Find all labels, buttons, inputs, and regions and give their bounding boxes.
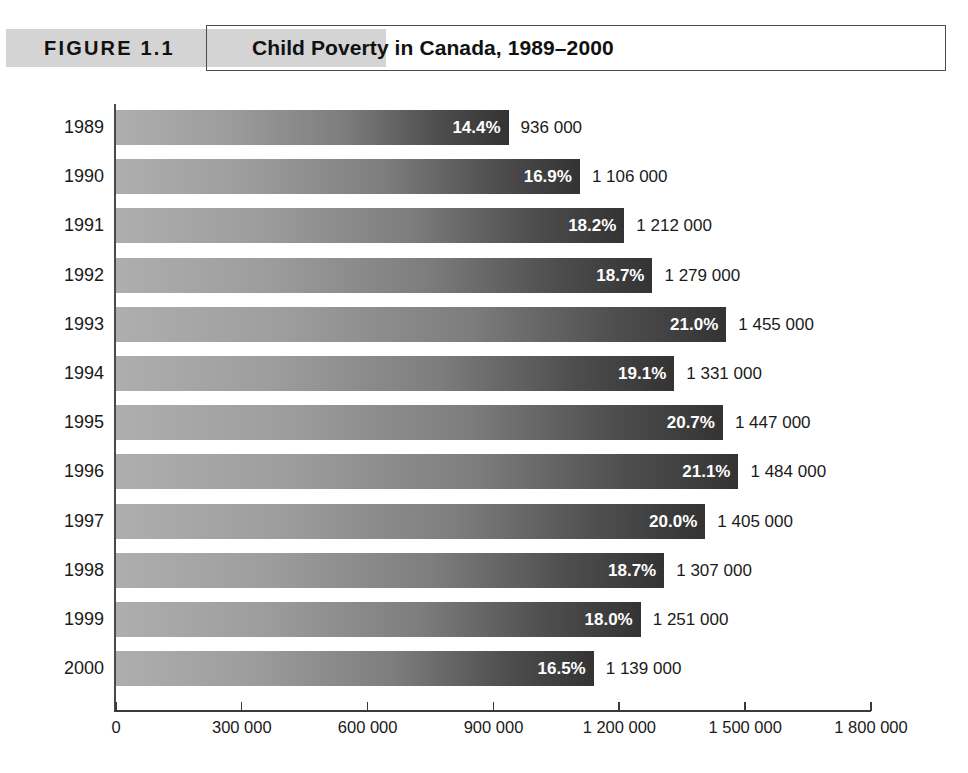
y-axis-category-label: 1996 (0, 454, 104, 489)
x-axis-tick-label: 1 500 000 (708, 718, 781, 737)
figure-title: Child Poverty in Canada, 1989–2000 (252, 26, 614, 70)
y-axis-category-label: 1999 (0, 602, 104, 637)
bar-value-label: 1 331 000 (686, 356, 762, 391)
bar-value-label: 1 484 000 (750, 454, 826, 489)
bar-value-label: 1 212 000 (636, 208, 712, 243)
bar-value-label: 1 139 000 (606, 651, 682, 686)
bar-value-label: 1 279 000 (664, 258, 740, 293)
bar-percent-label: 20.7% (667, 405, 715, 440)
y-axis-category-label: 1994 (0, 356, 104, 391)
figure-number-label: FIGURE 1.1 (44, 30, 244, 66)
y-axis-category-label: 1998 (0, 553, 104, 588)
x-axis-tick (493, 702, 495, 711)
x-axis-tick-label: 0 (111, 718, 120, 737)
bar: 21.0% (116, 307, 726, 342)
bar: 16.9% (116, 159, 580, 194)
bar: 19.1% (116, 356, 674, 391)
x-axis-tick (115, 702, 117, 711)
bar: 14.4% (116, 110, 509, 145)
chart-row: 198914.4%936 000 (0, 110, 968, 145)
x-axis-tick-label: 300 000 (212, 718, 272, 737)
y-axis-category-label: 2000 (0, 651, 104, 686)
bar-percent-label: 18.7% (608, 553, 656, 588)
bar-percent-label: 16.9% (524, 159, 572, 194)
x-axis-tick-label: 900 000 (464, 718, 524, 737)
chart-row: 199520.7%1 447 000 (0, 405, 968, 440)
y-axis-category-label: 1995 (0, 405, 104, 440)
chart-row: 199918.0%1 251 000 (0, 602, 968, 637)
bar-percent-label: 18.7% (596, 258, 644, 293)
bar: 18.0% (116, 602, 641, 637)
y-axis-category-label: 1991 (0, 208, 104, 243)
chart-row: 199118.2%1 212 000 (0, 208, 968, 243)
bar-percent-label: 21.1% (682, 454, 730, 489)
chart-row: 199321.0%1 455 000 (0, 307, 968, 342)
x-axis-tick (870, 702, 872, 711)
chart-plot-area: 0300 000600 000900 0001 200 0001 500 000… (0, 96, 968, 773)
y-axis-category-label: 1989 (0, 110, 104, 145)
bar-value-label: 1 251 000 (653, 602, 729, 637)
bar-value-label: 936 000 (521, 110, 582, 145)
bar: 18.7% (116, 553, 664, 588)
x-axis-tick (241, 702, 243, 711)
bar-percent-label: 20.0% (649, 504, 697, 539)
chart-row: 199218.7%1 279 000 (0, 258, 968, 293)
bar-percent-label: 21.0% (670, 307, 718, 342)
x-axis-tick (744, 702, 746, 711)
bar-percent-label: 19.1% (618, 356, 666, 391)
bar-value-label: 1 106 000 (592, 159, 668, 194)
chart-row: 199419.1%1 331 000 (0, 356, 968, 391)
bar-percent-label: 18.0% (585, 602, 633, 637)
bar: 18.2% (116, 208, 624, 243)
chart-row: 199621.1%1 484 000 (0, 454, 968, 489)
chart-row: 199818.7%1 307 000 (0, 553, 968, 588)
bar: 21.1% (116, 454, 738, 489)
x-axis-tick-label: 600 000 (338, 718, 398, 737)
bar-value-label: 1 307 000 (676, 553, 752, 588)
chart-row: 200016.5%1 139 000 (0, 651, 968, 686)
chart-row: 199720.0%1 405 000 (0, 504, 968, 539)
bar-value-label: 1 405 000 (717, 504, 793, 539)
bar-value-label: 1 455 000 (738, 307, 814, 342)
x-axis-tick-label: 1 800 000 (834, 718, 907, 737)
bar-percent-label: 18.2% (568, 208, 616, 243)
bar: 20.0% (116, 504, 705, 539)
y-axis-category-label: 1990 (0, 159, 104, 194)
bar: 16.5% (116, 651, 594, 686)
y-axis-category-label: 1992 (0, 258, 104, 293)
y-axis-category-label: 1993 (0, 307, 104, 342)
x-axis-tick (367, 702, 369, 711)
bar-percent-label: 14.4% (452, 110, 500, 145)
bar: 18.7% (116, 258, 652, 293)
x-axis-tick (618, 702, 620, 711)
figure-header: FIGURE 1.1 Child Poverty in Canada, 1989… (0, 0, 968, 96)
x-axis-tick-label: 1 200 000 (583, 718, 656, 737)
chart-row: 199016.9%1 106 000 (0, 159, 968, 194)
bar-percent-label: 16.5% (538, 651, 586, 686)
bar-value-label: 1 447 000 (735, 405, 811, 440)
bar: 20.7% (116, 405, 723, 440)
y-axis-category-label: 1997 (0, 504, 104, 539)
